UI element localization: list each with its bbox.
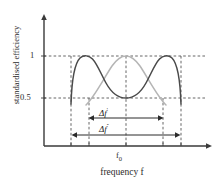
x-axis-label: frequency f [52,167,192,177]
y-axis-label: standardised efficiency [11,5,21,125]
chart-figure: standardised efficiency frequency f 1 0.… [0,0,220,183]
bandwidth-label-inner-superscript: ' [107,107,108,113]
bandwidth-arrow-outer-head-right [175,132,181,138]
y-tick-label-1: 1 [30,50,34,60]
y-tick-label-05: 0.5 [20,92,31,102]
bandwidth-arrow-inner-head-right [158,115,164,121]
bandwidth-label-inner: Δf' [99,107,108,118]
bandwidth-label-outer-superscript: ˆ [107,123,109,129]
bandwidth-label-outer: Δfˆ [99,123,109,134]
x-tick-label-f0-subscript: 0 [119,155,122,162]
x-axis-arrow [206,143,212,149]
bandwidth-label-inner-base: Δf [99,108,107,118]
bandwidth-arrow-outer-head-left [72,132,78,138]
chart-svg [0,0,220,183]
x-tick-label-f0: f0 [116,150,122,162]
y-axis-arrow [41,14,47,20]
bandwidth-arrow-inner-head-left [89,115,95,121]
bandwidth-label-outer-base: Δf [99,124,107,134]
